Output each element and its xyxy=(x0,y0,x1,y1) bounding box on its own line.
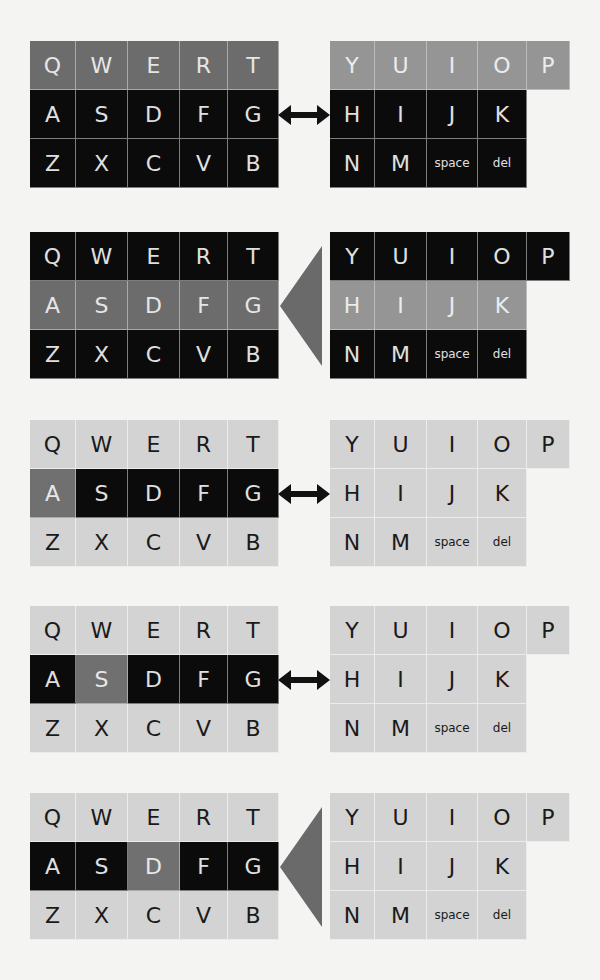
right-key-grid: YUIOPHIJKNMspacedel xyxy=(330,420,570,567)
key-space: space xyxy=(427,518,478,567)
key-i: I xyxy=(427,232,478,281)
key-y: Y xyxy=(330,41,375,90)
key-k: K xyxy=(478,90,527,139)
key-o: O xyxy=(478,606,527,655)
key-h: H xyxy=(330,469,375,518)
key-b: B xyxy=(228,139,279,188)
key-space: space xyxy=(427,891,478,940)
key-x: X xyxy=(76,518,128,567)
key-i: I xyxy=(427,606,478,655)
key-g: G xyxy=(228,469,279,518)
left-key-grid: QWERTASDFGZXCVB xyxy=(30,41,279,188)
key-o: O xyxy=(478,793,527,842)
key-p: P xyxy=(527,420,570,469)
key-r: R xyxy=(180,606,228,655)
left-row-3: ZXCVB xyxy=(30,704,279,753)
left-row-1: QWERT xyxy=(30,232,279,281)
key-c: C xyxy=(128,330,180,379)
key-g: G xyxy=(228,842,279,891)
key-t: T xyxy=(228,793,279,842)
key-c: C xyxy=(128,518,180,567)
key-e: E xyxy=(128,606,180,655)
key-y: Y xyxy=(330,420,375,469)
right-key-grid: YUIOPHIJKNMspacedel xyxy=(330,41,570,188)
double-arrow-icon xyxy=(278,102,330,132)
double-arrow-icon xyxy=(278,481,330,511)
left-key-grid: QWERTASDFGZXCVB xyxy=(30,606,279,753)
double-arrow-icon xyxy=(278,667,330,697)
key-f: F xyxy=(180,655,228,704)
key-o: O xyxy=(478,420,527,469)
left-row-3: ZXCVB xyxy=(30,330,279,379)
key-del: del xyxy=(478,139,527,188)
key-w: W xyxy=(76,41,128,90)
right-row-2: HIJK xyxy=(330,469,570,518)
key-del: del xyxy=(478,330,527,379)
key-i: I xyxy=(375,842,427,891)
key-n: N xyxy=(330,139,375,188)
key-v: V xyxy=(180,704,228,753)
left-row-2: ASDFG xyxy=(30,90,279,139)
key-b: B xyxy=(228,891,279,940)
key-r: R xyxy=(180,41,228,90)
key-d: D xyxy=(128,281,180,330)
key-o: O xyxy=(478,232,527,281)
scan-step-panel-3: QWERTASDFGZXCVBYUIOPHIJKNMspacedel xyxy=(0,420,600,570)
key-space: space xyxy=(427,139,478,188)
key-k: K xyxy=(478,842,527,891)
key-w: W xyxy=(76,232,128,281)
left-row-2: ASDFG xyxy=(30,469,279,518)
key-v: V xyxy=(180,139,228,188)
key-c: C xyxy=(128,139,180,188)
key-w: W xyxy=(76,420,128,469)
key-y: Y xyxy=(330,232,375,281)
left-row-3: ZXCVB xyxy=(30,518,279,567)
key-d: D xyxy=(128,90,180,139)
key-n: N xyxy=(330,330,375,379)
right-key-grid: YUIOPHIJKNMspacedel xyxy=(330,793,570,940)
key-t: T xyxy=(228,606,279,655)
key-p: P xyxy=(527,41,570,90)
key-j: J xyxy=(427,281,478,330)
key-g: G xyxy=(228,655,279,704)
key-space: space xyxy=(427,330,478,379)
key-x: X xyxy=(76,704,128,753)
right-row-1: YUIOP xyxy=(330,793,570,842)
key-t: T xyxy=(228,41,279,90)
key-s: S xyxy=(76,90,128,139)
key-u: U xyxy=(375,420,427,469)
key-j: J xyxy=(427,842,478,891)
key-j: J xyxy=(427,655,478,704)
key-t: T xyxy=(228,232,279,281)
key-y: Y xyxy=(330,606,375,655)
key-h: H xyxy=(330,90,375,139)
key-del: del xyxy=(478,891,527,940)
key-p: P xyxy=(527,606,570,655)
key-z: Z xyxy=(30,518,76,567)
key-z: Z xyxy=(30,704,76,753)
key-space: space xyxy=(427,704,478,753)
key-d: D xyxy=(128,655,180,704)
left-row-3: ZXCVB xyxy=(30,891,279,940)
key-i: I xyxy=(375,655,427,704)
key-s: S xyxy=(76,469,128,518)
key-q: Q xyxy=(30,232,76,281)
key-r: R xyxy=(180,420,228,469)
key-a: A xyxy=(30,281,76,330)
key-o: O xyxy=(478,41,527,90)
key-x: X xyxy=(76,139,128,188)
key-k: K xyxy=(478,469,527,518)
left-row-3: ZXCVB xyxy=(30,139,279,188)
right-row-3: NMspacedel xyxy=(330,518,570,567)
left-key-grid: QWERTASDFGZXCVB xyxy=(30,793,279,940)
left-row-1: QWERT xyxy=(30,420,279,469)
key-f: F xyxy=(180,469,228,518)
key-i: I xyxy=(427,41,478,90)
key-j: J xyxy=(427,469,478,518)
key-y: Y xyxy=(330,793,375,842)
left-key-grid: QWERTASDFGZXCVB xyxy=(30,420,279,567)
right-row-1: YUIOP xyxy=(330,606,570,655)
key-s: S xyxy=(76,655,128,704)
key-f: F xyxy=(180,281,228,330)
left-row-1: QWERT xyxy=(30,606,279,655)
